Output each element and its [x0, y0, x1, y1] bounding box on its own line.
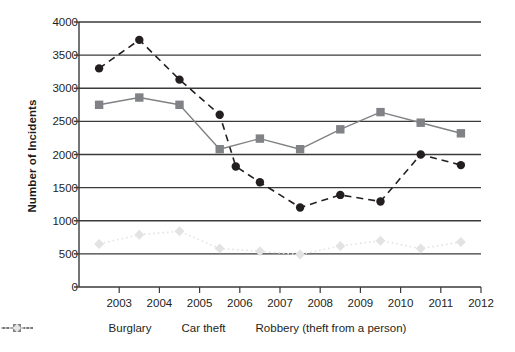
series-robbery-theft-from-a-person	[94, 226, 466, 259]
x-tick-label: 2009	[348, 297, 374, 309]
gridlines	[79, 22, 481, 254]
data-point-marker	[175, 101, 183, 109]
data-point-marker	[95, 101, 103, 109]
x-tick-label: 2005	[187, 297, 213, 309]
x-tick-label: 2011	[428, 297, 453, 309]
data-point-marker	[417, 119, 425, 127]
data-point-marker	[216, 111, 224, 119]
data-point-marker	[336, 125, 344, 133]
legend-item-car-theft[interactable]: Car theft	[181, 322, 225, 334]
data-point-marker	[175, 226, 185, 236]
incidents-line-chart: Number of Incidents 05001000150020002500…	[0, 0, 515, 352]
data-point-marker	[376, 108, 384, 116]
data-series-layer	[94, 36, 466, 260]
legend-label-robbery: Robbery (theft from a person)	[256, 322, 407, 334]
data-point-marker	[215, 244, 225, 254]
data-point-marker	[416, 244, 426, 254]
series-line	[99, 40, 461, 208]
x-tick-label: 2012	[468, 297, 494, 309]
x-axis-ticks	[119, 287, 481, 293]
data-point-marker	[457, 161, 465, 169]
data-point-marker	[216, 145, 224, 153]
data-point-marker	[336, 191, 344, 199]
legend-item-robbery[interactable]: Robbery (theft from a person)	[256, 322, 407, 334]
x-tick-label: 2004	[147, 297, 173, 309]
data-point-marker	[417, 150, 425, 158]
data-point-marker	[296, 145, 304, 153]
x-tick-label: 2006	[227, 297, 253, 309]
legend-label-burglary: Burglary	[109, 322, 152, 334]
data-point-marker	[296, 203, 304, 211]
series-line	[99, 231, 461, 254]
series-line	[99, 98, 461, 150]
data-point-marker	[376, 197, 384, 205]
series-car-theft	[95, 93, 465, 153]
series-burglary	[95, 36, 465, 212]
data-point-marker	[135, 36, 143, 44]
data-point-marker	[232, 162, 240, 170]
data-point-marker	[175, 75, 183, 83]
x-tick-label: 2010	[388, 297, 414, 309]
legend-item-burglary[interactable]: Burglary	[109, 322, 152, 334]
data-point-marker	[335, 241, 345, 251]
data-point-marker	[255, 246, 265, 256]
data-point-marker	[94, 239, 104, 249]
data-point-marker	[135, 93, 143, 101]
legend-label-car-theft: Car theft	[181, 322, 225, 334]
data-point-marker	[95, 64, 103, 72]
data-point-marker	[457, 129, 465, 137]
x-tick-label: 2008	[307, 297, 333, 309]
x-tick-label: 2007	[267, 297, 293, 309]
data-point-marker	[376, 236, 386, 246]
data-point-marker	[295, 250, 305, 260]
data-point-marker	[134, 230, 144, 240]
data-point-marker	[456, 237, 466, 247]
x-tick-label: 2003	[106, 297, 132, 309]
data-point-marker	[256, 178, 264, 186]
chart-legend: Burglary Car theft Robbery (theft from a…	[0, 322, 515, 334]
legend-swatch-robbery-icon	[0, 322, 34, 334]
data-point-marker	[256, 134, 264, 142]
